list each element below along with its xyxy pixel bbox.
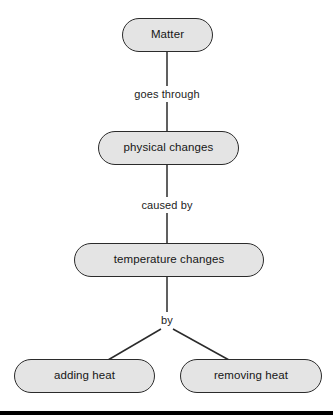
node-removing-heat-label: removing heat <box>214 370 288 383</box>
bottom-rule-divider <box>0 411 333 415</box>
node-temperature-changes[interactable]: temperature changes <box>74 243 264 277</box>
edge-label-caused-by: caused by <box>137 199 196 211</box>
flowchart-canvas: Matter physical changes temperature chan… <box>0 0 333 418</box>
node-temperature-changes-label: temperature changes <box>114 254 225 267</box>
connector-branch-left-to-adding-heat <box>108 329 161 360</box>
node-matter[interactable]: Matter <box>122 18 213 52</box>
edge-label-goes-through: goes through <box>130 88 203 100</box>
node-physical-changes-label: physical changes <box>124 142 214 155</box>
connector-branch-right-to-removing-heat <box>173 329 229 360</box>
node-adding-heat[interactable]: adding heat <box>14 359 155 393</box>
node-matter-label: Matter <box>151 29 184 42</box>
node-removing-heat[interactable]: removing heat <box>180 359 322 393</box>
node-adding-heat-label: adding heat <box>54 370 115 383</box>
edge-label-by: by <box>157 314 177 326</box>
node-physical-changes[interactable]: physical changes <box>98 131 239 165</box>
